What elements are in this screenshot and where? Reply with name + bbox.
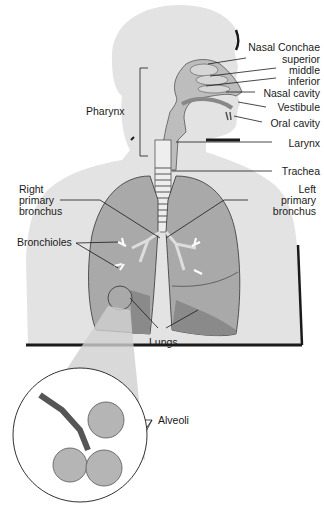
label-nasal-conchae: Nasal Conchae: [244, 42, 320, 53]
alveoli-inset: [13, 368, 147, 502]
label-alveoli: Alveoli: [158, 415, 189, 426]
label-vestibule: Vestibule: [244, 102, 320, 113]
label-inferior: inferior: [244, 76, 320, 87]
label-lungs: Lungs: [149, 337, 178, 348]
label-pharynx: Pharynx: [86, 106, 125, 117]
label-nasal-cavity: Nasal cavity: [244, 88, 320, 99]
label-larynx: Larynx: [244, 138, 320, 149]
label-trachea: Trachea: [244, 166, 320, 177]
label-left-primary-bronchus: Left primary bronchus: [250, 184, 316, 217]
label-oral-cavity: Oral cavity: [244, 118, 320, 129]
label-bronchioles: Bronchioles: [17, 237, 72, 248]
label-right-primary-bronchus: Right primary bronchus: [19, 184, 62, 217]
